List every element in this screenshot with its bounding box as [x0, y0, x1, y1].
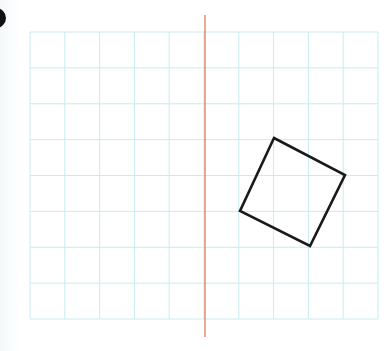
grid-paper	[30, 32, 378, 319]
rotated-square	[240, 138, 345, 246]
grid-diagram	[0, 0, 386, 351]
